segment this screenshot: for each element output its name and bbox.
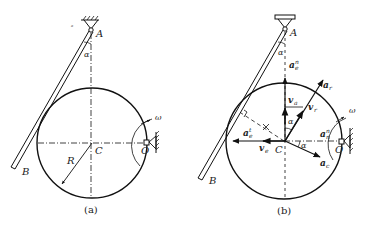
- label-an: a n n: [320, 127, 330, 140]
- panel-b: A α a n e a r v a v r α a t e v e C α: [198, 15, 356, 216]
- label-b-point-o: O: [335, 144, 343, 155]
- label-a-point-o: O: [141, 145, 149, 156]
- caption-b: (b): [277, 205, 291, 216]
- rod-ab-b: [198, 30, 287, 180]
- label-b-alpha-right: α: [301, 141, 307, 150]
- svg-text:n: n: [326, 133, 330, 140]
- vector-vr: [285, 111, 303, 141]
- svg-text:e: e: [265, 147, 269, 154]
- caption-a: (a): [84, 204, 98, 215]
- label-va: v a: [288, 95, 298, 106]
- label-a-omega: ω: [155, 113, 162, 122]
- label-ar: a r: [323, 80, 333, 91]
- ceiling-plate-b: [275, 15, 295, 19]
- label-b-point-c: C: [275, 144, 283, 155]
- svg-text:r: r: [314, 106, 318, 113]
- label-ae-n: a n e: [289, 58, 299, 71]
- label-a-radius: R: [66, 155, 75, 166]
- label-a-point-b: B: [21, 166, 29, 177]
- label-ae-t: a t e: [243, 126, 253, 139]
- label-b-alpha-top: α: [278, 48, 284, 57]
- label-b-omega: ω: [349, 106, 356, 115]
- svg-text:e: e: [249, 132, 253, 139]
- mechanism-diagram: ᵃ A α: [0, 0, 368, 228]
- svg-text:ᵃ: ᵃ: [71, 23, 73, 30]
- svg-text:a: a: [294, 99, 298, 106]
- label-a-point-c: C: [95, 145, 103, 156]
- label-ac: a c: [320, 158, 330, 169]
- label-ve: v e: [259, 143, 269, 154]
- label-a-alpha: α: [84, 50, 90, 59]
- svg-text:e: e: [295, 64, 299, 71]
- hinge-a-pin: [89, 28, 93, 32]
- angle-arc-b-top: [278, 42, 285, 44]
- svg-text:c: c: [326, 162, 330, 169]
- label-b-point-b: B: [208, 175, 216, 186]
- panel-a: ᵃ A α: [11, 16, 162, 215]
- rod-ab-a: [11, 31, 93, 169]
- svg-text:r: r: [329, 84, 333, 91]
- hinge-b-pin: [283, 27, 287, 31]
- label-a-point-a: A: [95, 28, 103, 39]
- label-b-alpha-mid: α: [288, 117, 294, 126]
- label-b-point-a: A: [289, 27, 297, 38]
- label-vr: v r: [308, 102, 318, 113]
- angle-arc-a: [84, 42, 91, 44]
